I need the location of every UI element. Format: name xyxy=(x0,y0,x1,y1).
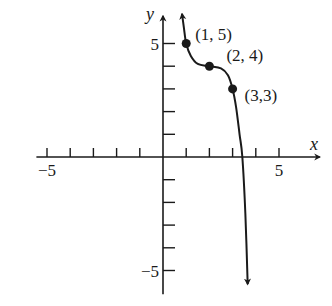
y-tick-label: −5 xyxy=(141,262,159,281)
x-tick-label: 5 xyxy=(275,161,284,180)
data-point xyxy=(228,84,237,93)
data-point xyxy=(205,62,214,71)
x-tick-label: −5 xyxy=(38,161,56,180)
y-axis-label: y xyxy=(144,4,154,24)
chart: −555−5 (1, 5)(2, 4)(3,3) x y xyxy=(0,0,332,306)
data-point xyxy=(182,39,191,48)
point-label: (3,3) xyxy=(245,86,278,105)
axes xyxy=(36,16,319,294)
points: (1, 5)(2, 4)(3,3) xyxy=(182,25,277,105)
point-label: (2, 4) xyxy=(226,46,263,65)
x-axis-label: x xyxy=(309,134,318,154)
y-tick-label: 5 xyxy=(151,35,160,54)
point-label: (1, 5) xyxy=(195,25,232,44)
